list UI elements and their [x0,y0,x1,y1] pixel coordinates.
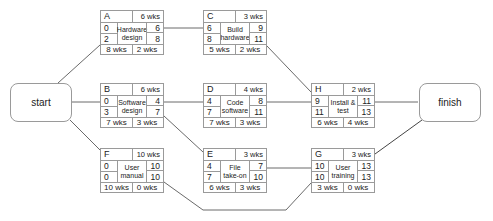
early-finish: 4 [147,96,163,106]
activity-node-c: C3 wks 68 Buildhardware 911 5 wks2 wks [203,10,267,55]
node-header: A6 wks [101,11,163,23]
early-finish: 13 [358,161,374,171]
finish-node: finish [419,83,481,122]
node-duration: 2 wks [352,84,371,95]
node-duration: 6 wks [141,11,160,22]
total-time: 8 wks [101,45,133,55]
late-start: 3 [101,107,117,117]
total-time: 10 wks [101,183,133,193]
early-start: 6 [204,23,220,34]
early-start: 10 [312,161,328,172]
activity-name: Usermanual [118,161,146,182]
late-finish: 7 [147,107,163,117]
edge-start-a [58,45,100,83]
slack-time: 3 wks [234,118,266,128]
late-start: 10 [312,172,328,182]
late-finish: 10 [250,172,266,182]
edge-b-e [164,116,203,152]
activity-name: Softwaredesign [118,96,146,117]
node-duration: 10 wks [137,149,160,160]
late-finish: 8 [147,34,163,44]
slack-time: 4 wks [342,118,374,128]
node-id: A [104,11,110,22]
slack-time: 0 wks [131,183,163,193]
node-duration: 6 wks [141,84,160,95]
activity-node-h: H2 wks 911 Install &test 1113 6 wks4 wks [311,83,375,128]
late-start: 11 [312,107,328,117]
node-id: G [315,149,322,160]
activity-node-e: E3 wks 47 Filetake-on 710 6 wks3 wks [203,148,267,193]
early-start: 9 [312,96,328,107]
activity-node-f: F10 wks 00 Usermanual 1010 10 wks0 wks [100,148,164,193]
finish-label: finish [438,97,461,108]
early-start: 4 [204,96,220,107]
total-time: 5 wks [204,45,236,55]
total-time: 6 wks [204,183,236,193]
early-start: 4 [204,161,220,172]
start-node: start [10,83,72,122]
late-finish: 10 [147,172,163,182]
activity-name: Install &test [329,96,357,117]
edge-g-finish [375,120,422,154]
late-finish: 11 [250,34,266,44]
total-time: 6 wks [312,118,344,128]
node-id: H [315,84,322,95]
total-time: 7 wks [204,118,236,128]
early-start: 0 [101,96,117,107]
early-finish: 6 [147,23,163,33]
early-finish: 8 [250,96,266,106]
node-id: E [207,149,213,160]
edge-start-f [70,120,100,150]
activity-name: Hardwaredesign [118,23,146,44]
activity-node-b: B6 wks 03 Softwaredesign 47 7 wks3 wks [100,83,164,128]
slack-time: 3 wks [131,118,163,128]
slack-time: 3 wks [234,183,266,193]
activity-node-g: G3 wks 1010 Usertraining 1313 3 wks0 wks [311,148,375,193]
activity-name: Usertraining [329,161,357,182]
total-time: 3 wks [312,183,344,193]
activity-node-d: D4 wks 47 Codesoftware 811 7 wks3 wks [203,83,267,128]
early-finish: 11 [358,96,374,106]
late-start: 8 [204,34,220,44]
node-duration: 3 wks [244,11,263,22]
edge-c-h [267,46,311,92]
early-finish: 9 [250,23,266,33]
slack-time: 0 wks [342,183,374,193]
activity-name: Codesoftware [221,96,249,117]
activity-name: Buildhardware [221,23,249,44]
node-id: F [104,149,110,160]
total-time: 7 wks [101,118,133,128]
early-finish: 7 [250,161,266,171]
node-id: C [207,11,214,22]
slack-time: 2 wks [131,45,163,55]
early-start: 0 [101,161,117,172]
late-start: 2 [101,34,117,44]
early-finish: 10 [147,161,163,171]
late-start: 7 [204,107,220,117]
activity-name: Filetake-on [221,161,249,182]
node-duration: 3 wks [244,149,263,160]
late-start: 7 [204,172,220,182]
node-duration: 4 wks [244,84,263,95]
node-id: B [104,84,110,95]
node-id: D [207,84,214,95]
late-start: 0 [101,172,117,182]
early-start: 0 [101,23,117,34]
node-duration: 3 wks [352,149,371,160]
late-finish: 11 [250,107,266,117]
late-finish: 13 [358,107,374,117]
activity-node-a: A6 wks 02 Hardwaredesign 68 8 wks2 wks [100,10,164,55]
late-finish: 13 [358,172,374,182]
slack-time: 2 wks [234,45,266,55]
start-label: start [31,97,50,108]
